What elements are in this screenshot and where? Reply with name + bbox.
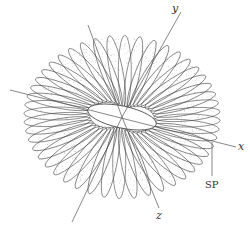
z-axis-label: z: [156, 210, 162, 221]
x-axis-label: x: [238, 141, 244, 152]
sp-label: SP: [205, 180, 219, 190]
helix-loop: [153, 117, 220, 136]
helix-loop: [114, 126, 140, 200]
x-axis: [10, 90, 236, 147]
helix-loop: [24, 98, 91, 117]
y-axis-label: y: [172, 3, 178, 14]
helix-loop: [103, 35, 129, 109]
z-axis-back: [72, 117, 122, 222]
z-axis: [122, 117, 159, 208]
helix-loop: [70, 124, 118, 192]
helix-loop: [125, 42, 173, 110]
helix-loop: [24, 107, 90, 120]
helix-loop: [117, 126, 155, 198]
y-axis-back: [88, 25, 122, 117]
torus-diagram: [0, 0, 249, 233]
helix-loop: [113, 126, 126, 198]
helix-loop: [89, 36, 127, 108]
